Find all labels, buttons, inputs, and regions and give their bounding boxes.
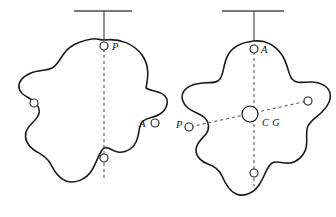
left-label-p: P [111,41,119,52]
figure-root: P A A P [0,0,336,217]
right-label-a: A [260,44,268,55]
left-hole-a[interactable] [151,119,159,127]
right-hole-p[interactable] [185,123,193,131]
right-figure-group: A P C G [175,11,330,195]
right-label-cg: C G [262,117,280,128]
left-hole-left[interactable] [30,99,38,107]
cg-marker[interactable] [242,106,258,122]
left-pivot-hole-p[interactable] [100,42,108,50]
cg-circle-outline [242,106,258,122]
right-hole-bottom[interactable] [250,169,258,177]
right-label-p: P [175,119,183,130]
left-label-a: A [138,118,146,129]
left-lamina-outline [19,39,167,182]
left-hole-bottom[interactable] [100,154,108,162]
right-pivot-hole-a[interactable] [250,45,258,53]
right-hole-right[interactable] [304,97,312,105]
cg-diagram: P A A P [0,0,336,217]
left-figure-group: P A [19,11,167,182]
